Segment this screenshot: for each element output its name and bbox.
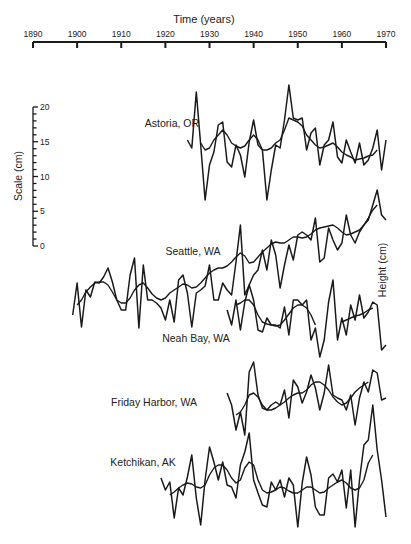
scale-tick-label: 20 (40, 102, 50, 112)
x-tick-label: 1900 (68, 29, 87, 39)
x-tick-label: 1920 (156, 29, 175, 39)
x-tick-label: 1910 (112, 29, 131, 39)
raw-line (73, 190, 386, 328)
label-ketchikan: Ketchikan, AK (110, 456, 175, 468)
label-astoria: Astoria, OR (145, 117, 200, 129)
x-tick-label: 1970 (377, 29, 396, 39)
raw-line (227, 280, 386, 357)
time-axis: Time (years) 189019001910192019301940195… (24, 13, 396, 48)
series-neah-bay-wa (227, 280, 386, 357)
series-ketchikan-ak (161, 405, 386, 527)
raw-line (187, 85, 386, 200)
x-tick-label: 1960 (332, 29, 351, 39)
sea-level-chart: Time (years) 189019001910192019301940195… (0, 0, 411, 544)
height-axis-title: Height (cm) (376, 243, 388, 297)
x-tick-label: 1950 (288, 29, 307, 39)
series-friday-harbor-wa (227, 362, 386, 435)
label-seattle: Seattle, WA (165, 245, 220, 257)
raw-line (227, 362, 386, 435)
x-axis-ticks: 189019001910192019301940195019601970 (24, 29, 396, 48)
x-tick-label: 1890 (24, 29, 43, 39)
x-tick-label: 1940 (244, 29, 263, 39)
scale-tick-label: 10 (40, 172, 50, 182)
x-tick-label: 1930 (200, 29, 219, 39)
raw-line (161, 405, 386, 527)
label-neah-bay: Neah Bay, WA (162, 332, 230, 344)
scale-tick-label: 15 (40, 137, 50, 147)
scale-tick-label: 5 (40, 206, 45, 216)
scale-ticks: 20151050 (33, 102, 50, 251)
label-friday-harbor: Friday Harbor, WA (111, 396, 197, 408)
scale-tick-label: 0 (40, 241, 45, 251)
scale-axis-title: Scale (cm) (12, 151, 24, 201)
smoothed-line (236, 382, 368, 415)
x-axis-title: Time (years) (173, 13, 234, 25)
scale-bar: 20151050 Scale (cm) (12, 102, 50, 251)
series-astoria-or (187, 85, 386, 200)
series-seattle-wa (73, 190, 386, 328)
